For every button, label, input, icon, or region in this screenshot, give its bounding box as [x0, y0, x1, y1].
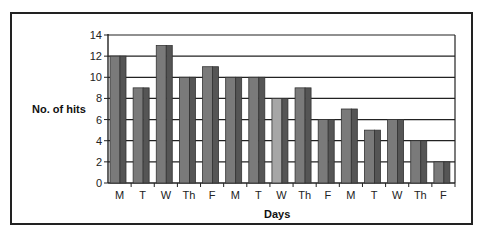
y-axis-label: No. of hits [32, 103, 86, 115]
bar [341, 109, 351, 183]
bar [318, 120, 328, 183]
x-tick-label: T [371, 189, 378, 201]
x-tick-label: W [276, 189, 287, 201]
x-tick-label: Th [183, 189, 196, 201]
x-axis-label: Days [264, 208, 290, 220]
x-tick-label: W [392, 189, 403, 201]
y-tick-label: 14 [90, 29, 102, 41]
x-tick-label: T [139, 189, 146, 201]
bar [388, 120, 398, 183]
x-tick-label: T [255, 189, 262, 201]
bar [411, 141, 421, 183]
y-tick-label: 4 [96, 135, 102, 147]
y-tick-label: 0 [96, 177, 102, 189]
bar [272, 98, 282, 183]
x-tick-label: M [346, 189, 355, 201]
bar [249, 77, 259, 183]
x-tick-label: F [440, 189, 447, 201]
y-tick-label: 6 [96, 114, 102, 126]
bar [203, 67, 213, 183]
x-tick-label: M [231, 189, 240, 201]
bar [226, 77, 236, 183]
bar [295, 88, 305, 183]
x-tick-label: F [324, 189, 331, 201]
bar [179, 77, 189, 183]
x-tick-label: Th [414, 189, 427, 201]
x-tick-label: W [161, 189, 172, 201]
bar [434, 162, 444, 183]
y-tick-label: 12 [90, 50, 102, 62]
bar-chart: 02468101214MTWThFMTWThFMTWThF [0, 0, 484, 238]
bar [156, 46, 166, 183]
bar [364, 130, 374, 183]
x-tick-label: M [115, 189, 124, 201]
bar [110, 56, 120, 183]
y-tick-label: 8 [96, 92, 102, 104]
x-tick-label: F [209, 189, 216, 201]
y-tick-label: 2 [96, 156, 102, 168]
y-tick-label: 10 [90, 71, 102, 83]
bar [133, 88, 143, 183]
x-tick-label: Th [298, 189, 311, 201]
